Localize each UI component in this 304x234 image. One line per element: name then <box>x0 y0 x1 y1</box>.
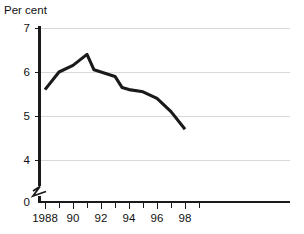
line-chart: 76540 19889092949698 Per cent <box>0 0 304 234</box>
chart-svg: 76540 19889092949698 Per cent <box>0 0 304 234</box>
x-tick-label: 94 <box>123 212 136 224</box>
y-tick-label: 4 <box>24 154 31 166</box>
x-tick-label: 92 <box>95 212 108 224</box>
y-tick-label: 5 <box>24 110 30 122</box>
x-tick-label: 90 <box>67 212 80 224</box>
x-tick-label: 96 <box>151 212 164 224</box>
y-tick-label: 0 <box>24 196 30 208</box>
y-axis-title: Per cent <box>4 4 48 16</box>
x-tick-label: 1988 <box>32 212 58 224</box>
x-tick-label: 98 <box>179 212 192 224</box>
y-tick-label: 6 <box>24 66 30 78</box>
y-tick-label: 7 <box>24 22 30 34</box>
